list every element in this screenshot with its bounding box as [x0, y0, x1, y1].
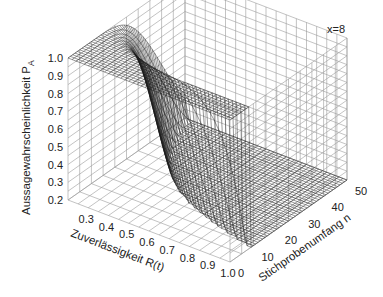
x-tick-label: 0.6 [139, 236, 154, 248]
y-tick-label: 50 [355, 185, 367, 197]
y-tick-label: 10 [261, 251, 273, 263]
z-tick-label: 0.3 [48, 176, 63, 188]
z-tick-label: 0.7 [48, 105, 63, 117]
z-tick-label: 0.2 [48, 194, 63, 206]
parameter-annotation: x=8 [327, 23, 345, 35]
z-tick-label: 0.9 [48, 70, 63, 82]
y-tick-label: 30 [308, 218, 320, 230]
z-tick-label: 0.4 [48, 159, 63, 171]
x-tick-label: 0.8 [180, 252, 195, 264]
z-axis-label-subscript: A [26, 60, 36, 66]
y-tick-label: 0 [238, 267, 244, 279]
y-tick-label: 40 [332, 201, 344, 213]
surface-chart: x=8 Zuverlässigkeit R(t) Stichprobenumfa… [0, 0, 383, 297]
z-tick-label: 1.0 [48, 52, 63, 64]
x-tick-label: 0.5 [119, 228, 134, 240]
z-axis-label: Aussagewahrscheinlichkeit PA [20, 60, 36, 215]
x-axis-label: Zuverlässigkeit R(t) [69, 227, 166, 274]
x-tick-label: 0.3 [79, 213, 94, 225]
y-tick-label: 20 [285, 234, 297, 246]
z-tick-label: 0.6 [48, 123, 63, 135]
axis-labels: x=8 Zuverlässigkeit R(t) Stichprobenumfa… [20, 23, 353, 284]
x-tick-label: 0.9 [200, 259, 215, 271]
x-tick-label: 1.0 [220, 267, 235, 279]
x-tick-label: 0.7 [160, 244, 175, 256]
z-tick-label: 0.5 [48, 141, 63, 153]
x-tick-label: 0.4 [99, 221, 114, 233]
surface-mesh [68, 25, 347, 247]
z-tick-label: 0.8 [48, 88, 63, 100]
